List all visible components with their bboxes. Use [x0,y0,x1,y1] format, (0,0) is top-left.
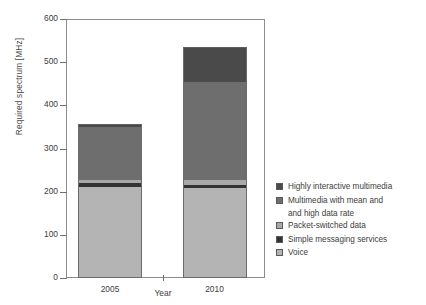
y-axis-tick-label: 600 [12,14,58,22]
legend-item[interactable]: Packet-switched data [276,220,426,232]
y-axis-tick-label: 100 [12,230,58,238]
legend-item-label: Packet-switched data [288,220,366,231]
y-axis-tick-label: 300 [12,144,58,152]
legend-item[interactable]: Simple messaging services [276,234,426,246]
legend-item-label: Simple messaging services [288,234,387,245]
bar-segment [183,47,247,82]
bar-segment [78,124,142,127]
legend-swatch-icon [276,249,283,256]
y-axis-tick [60,149,67,150]
y-axis-tick-label: 500 [12,57,58,65]
legend-item[interactable]: Voice [276,247,426,259]
x-axis-title: Year [133,288,193,298]
legend-swatch-icon [276,222,283,229]
y-axis-tick-label: 200 [12,187,58,195]
x-axis-tick [163,275,164,281]
x-axis-tick-label: 2005 [80,284,140,294]
bar-segment [78,187,142,278]
y-axis-tick [60,192,67,193]
y-axis-tick [60,235,67,236]
bar-segment [78,127,142,179]
y-axis-tick-label: 0 [12,273,58,281]
bar-segment [78,180,142,184]
x-axis-tick-label: 2010 [185,284,245,294]
y-axis-tick-label: 400 [12,100,58,108]
legend-item-label-continued: and high data rate [288,208,426,220]
legend-item[interactable]: Multimedia with mean and [276,195,426,207]
y-axis-title: Required spectrum [MHz] [15,17,24,157]
bar-segment [183,185,247,188]
legend-swatch-icon [276,236,283,243]
bar-segment [183,180,247,184]
chart-legend: Highly interactive multimediaMultimedia … [276,181,426,261]
bar-segment [78,183,142,186]
legend-swatch-icon [276,183,283,190]
legend-item[interactable]: Highly interactive multimedia [276,181,426,193]
bar-segment [183,82,247,181]
y-axis-tick [60,278,67,279]
y-axis-tick [60,105,67,106]
legend-swatch-icon [276,197,283,204]
bar-2010 [183,19,247,278]
bar-2005 [78,19,142,278]
y-axis-tick [60,19,67,20]
stacked-bar-chart: Required spectrum [MHz] 0100200300400500… [0,0,426,305]
bar-segment [183,188,247,278]
legend-item-label: Multimedia with mean and [288,195,383,206]
y-axis-tick [60,62,67,63]
legend-item-label: Highly interactive multimedia [288,181,392,192]
legend-item-label: Voice [288,247,308,258]
